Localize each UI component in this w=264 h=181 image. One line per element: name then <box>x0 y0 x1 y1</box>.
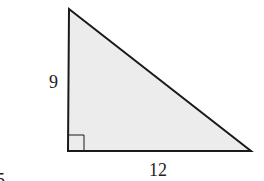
vertical-leg-label: 9 <box>49 72 58 92</box>
horizontal-leg-label: 12 <box>149 160 167 180</box>
partial-label: 5 <box>0 170 5 181</box>
triangle-diagram: 9 12 5 <box>0 0 264 181</box>
right-triangle <box>68 9 251 151</box>
